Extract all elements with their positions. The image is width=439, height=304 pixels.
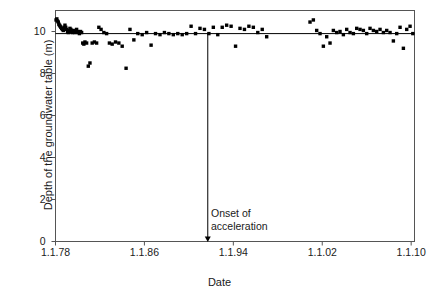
- data-point: [348, 31, 351, 34]
- data-point: [198, 27, 201, 30]
- data-point: [398, 26, 401, 29]
- data-point: [99, 28, 102, 31]
- data-point: [322, 45, 325, 48]
- data-point: [378, 28, 381, 31]
- data-point: [203, 28, 206, 31]
- data-point: [172, 33, 175, 36]
- y-tick-label: 0: [24, 235, 46, 247]
- data-point: [163, 31, 166, 34]
- data-point: [368, 27, 371, 30]
- data-point: [132, 38, 135, 41]
- data-point: [105, 32, 108, 35]
- data-point: [315, 29, 318, 32]
- data-point: [216, 33, 219, 36]
- onset-arrow: [205, 34, 211, 242]
- data-point: [372, 29, 375, 32]
- data-point: [189, 25, 192, 28]
- y-tick-label: 10: [24, 25, 46, 37]
- data-point: [212, 26, 215, 29]
- data-point: [234, 45, 237, 48]
- data-point: [124, 67, 127, 70]
- data-point: [388, 31, 391, 34]
- data-point: [110, 42, 113, 45]
- data-point: [194, 32, 197, 35]
- y-axis-title: Depth of the groundwater table (m): [42, 5, 54, 245]
- x-tick-label: 1.1.10: [381, 246, 439, 258]
- data-point: [114, 40, 117, 43]
- data-point: [411, 32, 414, 35]
- y-tick-label: 8: [24, 67, 46, 79]
- x-axis-title: Date: [0, 276, 439, 288]
- data-point: [243, 28, 246, 31]
- data-point: [362, 29, 365, 32]
- data-point: [352, 32, 355, 35]
- data-point: [365, 32, 368, 35]
- data-point: [318, 32, 321, 35]
- y-tick-label: 4: [24, 151, 46, 163]
- scatter-plot-canvas: [0, 0, 439, 304]
- y-tick-label: 2: [24, 193, 46, 205]
- data-point: [95, 41, 98, 44]
- data-point: [325, 35, 328, 38]
- data-point: [136, 32, 139, 35]
- data-point: [332, 29, 335, 32]
- data-point: [335, 31, 338, 34]
- data-point: [405, 28, 408, 31]
- data-point: [140, 33, 143, 36]
- data-point: [328, 41, 331, 44]
- data-point: [382, 31, 385, 34]
- data-point: [80, 31, 83, 34]
- data-point: [247, 25, 250, 28]
- data-point: [252, 26, 255, 29]
- y-tick-label: 6: [24, 109, 46, 121]
- data-point: [128, 28, 131, 31]
- data-point: [355, 27, 358, 30]
- data-point: [238, 27, 241, 30]
- data-point: [392, 39, 395, 42]
- data-point: [229, 25, 232, 28]
- x-tick-label: 1.1.78: [26, 246, 86, 258]
- data-point: [342, 33, 345, 36]
- data-point: [402, 47, 405, 50]
- data-point: [176, 32, 179, 35]
- data-point: [221, 26, 224, 29]
- data-point: [117, 41, 120, 44]
- data-point: [395, 32, 398, 35]
- data-point: [265, 35, 268, 38]
- data-point: [375, 30, 378, 33]
- data-point: [385, 29, 388, 32]
- data-point: [185, 32, 188, 35]
- data-point: [85, 41, 88, 44]
- chart-figure: Date Depth of the groundwater table (m) …: [0, 0, 439, 304]
- data-point: [181, 33, 184, 36]
- data-point: [358, 28, 361, 31]
- data-point: [120, 45, 123, 48]
- onset-annotation-line-1: Onset of: [211, 207, 268, 220]
- x-tick-label: 1.1.02: [292, 246, 352, 258]
- data-point: [154, 32, 157, 35]
- x-tick-label: 1.1.86: [114, 246, 174, 258]
- onset-annotation: Onset of acceleration: [211, 207, 268, 233]
- data-point: [261, 28, 264, 31]
- data-point: [88, 61, 91, 64]
- data-point: [408, 25, 411, 28]
- onset-annotation-line-2: acceleration: [211, 220, 268, 233]
- data-points: [54, 17, 414, 70]
- data-point: [345, 28, 348, 31]
- data-point: [338, 30, 341, 33]
- data-point: [312, 18, 315, 21]
- data-point: [158, 33, 161, 36]
- data-point: [167, 32, 170, 35]
- data-point: [308, 20, 311, 23]
- data-point: [225, 24, 228, 27]
- data-point: [256, 31, 259, 34]
- data-point: [145, 31, 148, 34]
- data-point: [87, 64, 90, 67]
- data-point: [62, 29, 65, 32]
- x-tick-label: 1.1.94: [203, 246, 263, 258]
- data-point: [149, 43, 152, 46]
